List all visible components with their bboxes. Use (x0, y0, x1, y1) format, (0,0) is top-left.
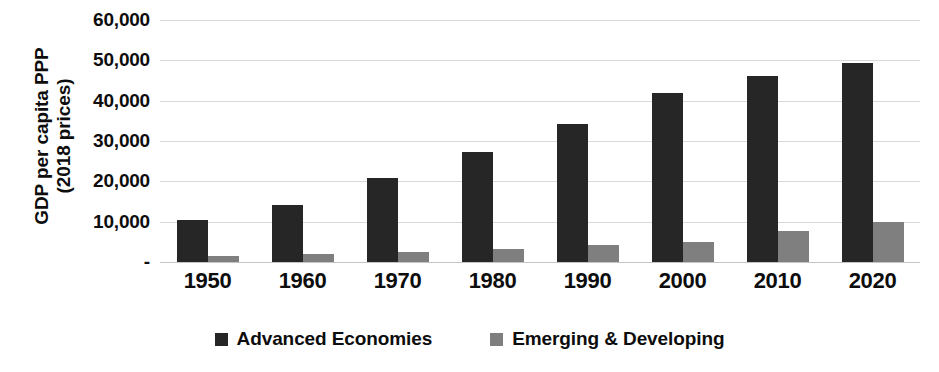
y-axis-tick-label: 10,000 (62, 211, 150, 233)
y-axis-tick-label: 50,000 (62, 49, 150, 71)
bar (842, 63, 873, 262)
y-axis-title-line-1: GDP per capita PPP (31, 47, 53, 224)
bar (683, 242, 714, 262)
bar-group (445, 20, 540, 262)
gridline (160, 262, 920, 263)
bar (493, 249, 524, 262)
x-axis-tick-label: 1990 (540, 268, 635, 308)
bar (652, 93, 683, 262)
x-axis-tick-label: 1950 (160, 268, 255, 308)
bar-group (255, 20, 350, 262)
bar-group (350, 20, 445, 262)
bar (747, 76, 778, 262)
y-axis-tick-label: 40,000 (62, 90, 150, 112)
plot-area (160, 20, 920, 262)
y-axis-tick-label: - (62, 251, 150, 273)
bar (208, 256, 239, 262)
x-axis-tick-labels: 19501960197019801990200020102020 (160, 268, 920, 308)
bar-group (730, 20, 825, 262)
bar (398, 252, 429, 262)
x-axis-tick-label: 2020 (825, 268, 920, 308)
legend-swatch-icon (215, 333, 228, 346)
y-axis-tick-label: 30,000 (62, 130, 150, 152)
y-axis-tick-labels: -10,00020,00030,00040,00050,00060,000 (62, 0, 150, 290)
bar (272, 205, 303, 262)
y-axis-tick-label: 60,000 (62, 9, 150, 31)
bar-chart: GDP per capita PPP (2018 prices) -10,000… (0, 0, 939, 372)
legend-swatch-icon (490, 333, 503, 346)
bar-groups (160, 20, 920, 262)
bar (303, 254, 334, 262)
bar (177, 220, 208, 262)
legend-item[interactable]: Advanced Economies (215, 328, 433, 350)
bar-group (635, 20, 730, 262)
legend-item[interactable]: Emerging & Developing (490, 328, 724, 350)
x-axis-tick-label: 2010 (730, 268, 825, 308)
bar (588, 245, 619, 262)
x-axis-tick-label: 1970 (350, 268, 445, 308)
bar (873, 222, 904, 262)
bar (462, 152, 493, 263)
bar-group (825, 20, 920, 262)
bar (367, 178, 398, 262)
legend-label: Advanced Economies (237, 328, 433, 350)
x-axis-tick-label: 1980 (445, 268, 540, 308)
chart-legend: Advanced EconomiesEmerging & Developing (0, 328, 939, 350)
x-axis-tick-label: 1960 (255, 268, 350, 308)
bar (778, 231, 809, 262)
y-axis-tick-label: 20,000 (62, 170, 150, 192)
legend-label: Emerging & Developing (512, 328, 724, 350)
bar-group (540, 20, 635, 262)
bar-group (160, 20, 255, 262)
x-axis-tick-label: 2000 (635, 268, 730, 308)
bar (557, 124, 588, 262)
